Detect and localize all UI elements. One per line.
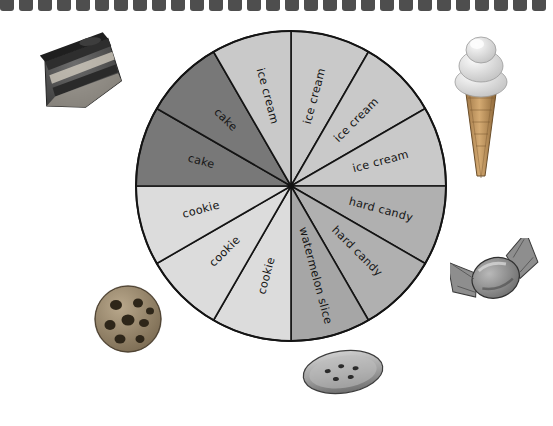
watermelon-photo xyxy=(300,345,386,399)
pie-slices-group xyxy=(136,31,446,341)
pie-chart-container: ice creamice creamice creamhard candyhar… xyxy=(0,0,553,426)
hard-candy-photo xyxy=(450,238,542,326)
ice-cream-photo xyxy=(443,30,519,182)
cake-photo xyxy=(26,30,132,122)
worksheet-page: ice creamice creamice creamhard candyhar… xyxy=(0,0,553,426)
cookie-photo xyxy=(92,283,164,355)
